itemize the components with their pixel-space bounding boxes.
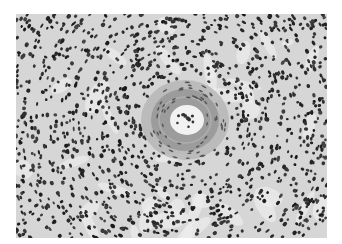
tissue-section	[16, 14, 327, 238]
histology-micrograph	[16, 14, 327, 238]
